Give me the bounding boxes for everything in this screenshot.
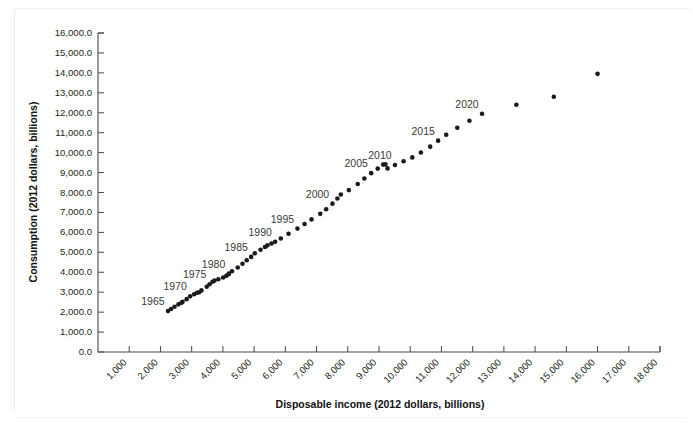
data-point [369, 171, 374, 176]
y-tick-label: 13,000.0 [55, 87, 92, 98]
y-axis-title: Consumption (2012 dollars, billions) [27, 102, 39, 283]
y-tick-label: 11,000.0 [55, 127, 92, 138]
year-annotation-2005: 2005 [345, 157, 369, 169]
year-annotation-1980: 1980 [202, 258, 226, 270]
data-point [428, 144, 433, 149]
year-annotations-group: 1965197019751980198519901995200020052010… [141, 98, 479, 307]
y-tick-label: 15,000.0 [55, 47, 92, 58]
y-tick-label: 7,000.0 [60, 206, 92, 217]
year-annotation-2010: 2010 [368, 149, 392, 161]
data-point [455, 125, 460, 130]
data-point [286, 231, 291, 236]
data-point [444, 132, 449, 137]
data-point [339, 192, 344, 197]
x-tick-label: 3,000 [166, 357, 191, 382]
year-annotation-2015: 2015 [411, 125, 435, 137]
data-point [385, 166, 390, 171]
data-point [362, 176, 367, 181]
x-tick-label: 4,000 [198, 357, 223, 382]
scatter-plot-figure: 0.01,000.02,000.03,000.04,000.05,000.06,… [0, 0, 693, 430]
x-axis-title: Disposable income (2012 dollars, billion… [276, 398, 485, 410]
year-annotation-1995: 1995 [271, 213, 295, 225]
year-annotation-1970: 1970 [163, 280, 187, 292]
x-tick-label: 1,000 [104, 357, 129, 382]
data-point [401, 159, 406, 164]
y-tick-label: 5,000.0 [60, 246, 92, 257]
x-tick-label: 9,000 [354, 357, 379, 382]
x-tick-label: 12,000 [444, 357, 473, 386]
x-tick-label: 2,000 [135, 357, 160, 382]
data-point [302, 222, 307, 227]
data-point [180, 300, 185, 305]
year-annotation-1965: 1965 [141, 295, 165, 307]
x-tick-label: 15,000 [537, 357, 566, 386]
data-point [279, 236, 284, 241]
data-points-group [166, 72, 600, 314]
x-tick-label: 11,000 [413, 357, 441, 385]
data-point [249, 255, 254, 260]
data-point [419, 150, 424, 155]
y-tick-label: 0.0 [79, 346, 92, 357]
year-annotation-2020: 2020 [455, 98, 479, 110]
data-point [258, 247, 263, 252]
x-tick-label: 6,000 [260, 357, 285, 382]
y-tick-label: 6,000.0 [60, 226, 92, 237]
data-point [595, 72, 600, 77]
data-point [172, 304, 177, 309]
y-tick-label: 8,000.0 [60, 187, 92, 198]
x-tick-label: 18,000 [631, 357, 660, 386]
data-point [244, 258, 249, 263]
data-point [230, 269, 235, 274]
y-tick-label: 16,000.0 [55, 27, 92, 38]
data-point [309, 217, 314, 222]
y-tick-label: 2,000.0 [60, 306, 92, 317]
plot-canvas: 0.01,000.02,000.03,000.04,000.05,000.06,… [0, 0, 693, 430]
data-point [393, 163, 398, 168]
y-axis-ticks: 0.01,000.02,000.03,000.04,000.05,000.06,… [55, 27, 104, 357]
x-tick-label: 17,000 [600, 357, 629, 386]
data-point [375, 166, 380, 171]
data-point [240, 261, 245, 266]
y-tick-label: 10,000.0 [55, 147, 92, 158]
y-tick-label: 12,000.0 [55, 107, 92, 118]
data-point [514, 102, 519, 107]
data-point [295, 226, 300, 231]
data-point [355, 182, 360, 187]
data-point [480, 111, 485, 116]
data-point [467, 118, 472, 123]
y-tick-label: 4,000.0 [60, 266, 92, 277]
y-tick-label: 3,000.0 [60, 286, 92, 297]
x-tick-label: 8,000 [322, 357, 347, 382]
x-tick-label: 10,000 [381, 357, 410, 386]
y-tick-label: 1,000.0 [60, 326, 92, 337]
y-tick-label: 9,000.0 [60, 167, 92, 178]
data-point [273, 239, 278, 244]
data-point [410, 155, 415, 160]
year-annotation-2000: 2000 [306, 188, 330, 200]
data-point [335, 196, 340, 201]
data-point [199, 288, 204, 293]
x-tick-label: 5,000 [229, 357, 254, 382]
x-tick-label: 7,000 [291, 357, 316, 382]
data-point [324, 207, 329, 212]
data-point [330, 201, 335, 206]
year-annotation-1985: 1985 [224, 241, 248, 253]
data-point [188, 294, 193, 299]
data-point [235, 265, 240, 270]
data-point [347, 188, 352, 193]
y-tick-label: 14,000.0 [55, 67, 92, 78]
data-point [436, 138, 441, 143]
data-point [552, 95, 557, 100]
x-tick-label: 16,000 [568, 357, 597, 386]
year-annotation-1990: 1990 [249, 226, 273, 238]
data-point [216, 277, 221, 282]
data-point [252, 251, 257, 256]
x-tick-label: 14,000 [506, 357, 535, 386]
x-tick-label: 13,000 [475, 357, 504, 386]
data-point [265, 243, 270, 248]
data-point [318, 212, 323, 217]
data-point [383, 162, 388, 167]
